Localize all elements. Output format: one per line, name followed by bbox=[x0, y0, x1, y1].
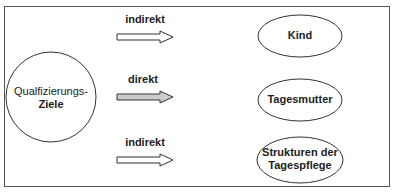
arrow-indirekt-bottom bbox=[117, 154, 173, 166]
target-strukturen-line2: Tagespflege bbox=[256, 159, 344, 172]
edge-label-1: indirekt bbox=[120, 13, 170, 26]
arrow-direkt bbox=[117, 91, 173, 103]
target-strukturen-line1: Strukturen der bbox=[256, 146, 344, 159]
edge-label-3: indirekt bbox=[120, 136, 170, 149]
target-label-strukturen: Strukturen der Tagespflege bbox=[256, 146, 344, 172]
source-node-label: Qualfizierungs- Ziele bbox=[6, 85, 96, 111]
source-line1: Qualfizierungs- bbox=[6, 85, 96, 98]
source-line2: Ziele bbox=[6, 98, 96, 111]
edge-label-2: direkt bbox=[118, 73, 168, 86]
arrow-indirekt-top bbox=[117, 31, 173, 43]
target-label-kind: Kind bbox=[258, 29, 342, 42]
target-label-tagesmutter: Tagesmutter bbox=[258, 93, 342, 106]
